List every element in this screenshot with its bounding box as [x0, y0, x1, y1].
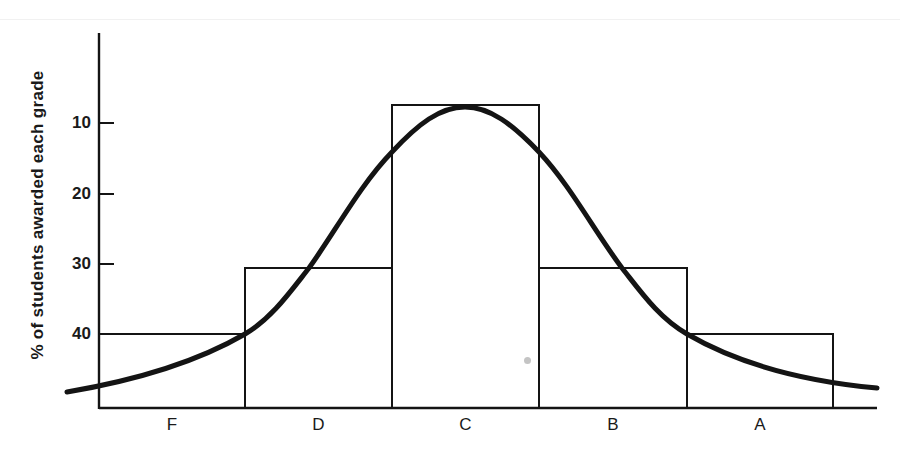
x-label-c: C [446, 415, 486, 435]
y-tick-label-20: 20 [51, 184, 91, 204]
scan-speck [524, 357, 531, 364]
y-axis-ticks [99, 123, 114, 334]
normal-distribution-curve [67, 107, 877, 392]
x-label-f: F [152, 415, 192, 435]
grade-distribution-chart [0, 0, 900, 459]
x-label-b: B [593, 415, 633, 435]
x-label-d: D [299, 415, 339, 435]
y-tick-label-30: 30 [51, 254, 91, 274]
y-tick-label-10: 10 [51, 113, 91, 133]
y-axis-title: % of students awarded each grade [28, 70, 48, 359]
x-label-a: A [740, 415, 780, 435]
y-tick-label-40: 40 [51, 324, 91, 344]
bar-b [539, 268, 687, 408]
histogram-bars [99, 105, 833, 408]
bar-d [245, 268, 392, 408]
bar-c [392, 105, 539, 408]
